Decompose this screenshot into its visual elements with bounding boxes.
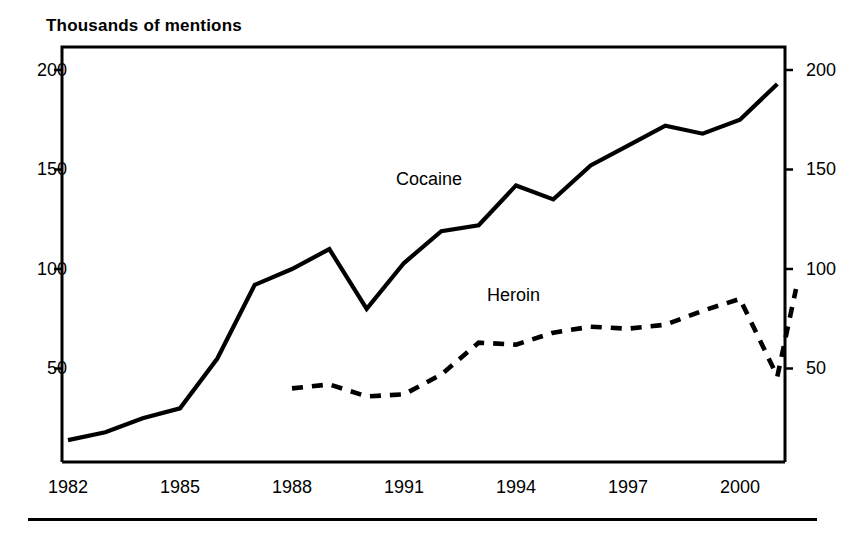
chart-plot-area [0,0,845,545]
data-series-lines [68,84,796,440]
axes-frame [62,47,785,462]
axis-ticks [54,70,793,369]
footer-rule [28,518,817,521]
chart-figure: Thousands of mentions 200 150 100 50 200… [0,0,845,545]
